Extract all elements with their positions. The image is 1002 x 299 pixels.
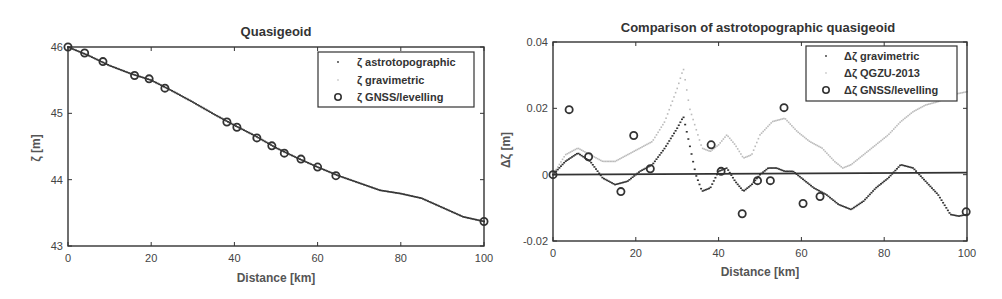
legend-entry-gnss: Δζ GNSS/levelling [844,84,938,97]
series-dot [923,179,925,181]
series-dot [627,154,629,156]
series-dot [660,152,662,154]
series-dot [921,177,923,179]
series-dot [832,159,834,161]
series-dot [708,150,710,152]
series-dot [730,174,732,176]
series-dot [939,197,941,199]
series-dot [783,118,785,120]
series-dot [673,96,675,98]
series-dot [888,177,890,179]
series-dot [562,159,564,161]
series-dot [729,138,731,140]
series-dot [738,185,740,187]
series-dot [638,148,640,150]
series-dot [863,154,865,156]
series-dot [719,142,721,144]
series-dot [574,149,576,151]
series-dot [713,180,715,182]
series-dot [578,148,580,150]
series-dot [813,143,815,145]
series-dot [630,152,632,154]
series-dot [761,132,763,134]
x-tick-label: 80 [878,247,890,259]
series-dot [925,181,927,183]
series-dot [734,143,736,145]
series-dot [891,173,893,175]
data-point [799,200,806,207]
series-dot [804,137,806,139]
series-dot [947,210,949,212]
series-dot [613,161,615,163]
series-dot [689,146,691,148]
series-dot [727,169,729,171]
x-tick-label: 60 [311,252,323,264]
series-dot [887,135,889,137]
series-dot [641,146,643,148]
series-dot [903,119,905,121]
series-dot [844,167,846,169]
series-dot [818,146,820,148]
series-dot [926,182,928,184]
series-dot [605,161,607,163]
series-dot [758,138,760,140]
series-dot [896,125,898,127]
series-dot [563,162,565,164]
series-dot [793,127,795,129]
series-dot [948,212,950,214]
series-dot [933,102,935,104]
series-dot [922,106,924,108]
series-dot [603,161,605,163]
series-dot [600,175,602,177]
series-dot [815,144,817,146]
series-dot [817,145,819,147]
data-point [630,132,637,139]
series-dot [679,121,681,123]
series-dot [726,167,728,169]
series-dot [633,150,635,152]
series-dot [576,148,578,150]
series-dot [622,156,624,158]
series-dot [886,178,888,180]
series-dot [687,138,689,140]
series-dot [788,122,790,124]
series-dot [824,151,826,153]
series-dot [657,156,659,158]
series-dot [904,117,906,119]
series-dot [933,189,935,191]
series-dot [893,128,895,130]
series-dot [871,148,873,150]
series-dot [731,139,733,141]
series-dot [847,165,849,167]
series-dot [696,129,698,131]
series-dot [676,127,678,129]
series-dot [856,159,858,161]
series-dot [837,163,839,165]
series-dot [668,109,670,111]
series-dot [645,144,647,146]
series-dot [965,91,967,93]
series-dot [683,117,685,119]
series-dot [829,156,831,158]
series-dot [710,150,712,152]
series-dot [660,126,662,128]
chart-title: Quasigeoid [241,24,312,39]
x-tick-label: 40 [712,247,724,259]
series-dot [705,149,707,151]
series-dot [737,148,739,150]
x-tick-label: 20 [145,252,157,264]
series-dot [772,121,774,123]
series-dot [753,149,755,151]
series-dot [888,133,890,135]
x-axis-label: Distance [km] [721,265,800,279]
series-dot [928,103,930,105]
series-dot [877,142,879,144]
series-dot [676,88,678,90]
series-dot [855,160,857,162]
series-dot [852,163,854,165]
series-dot [807,139,809,141]
data-point [708,141,715,148]
series-dot [836,162,838,164]
series-dot [721,140,723,142]
series-dot [555,169,557,171]
